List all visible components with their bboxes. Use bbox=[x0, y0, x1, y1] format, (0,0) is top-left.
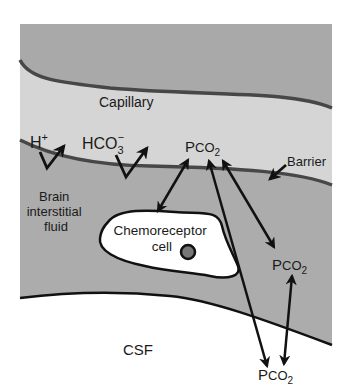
diagram: Capillary Brain interstitial fluid Chemo… bbox=[0, 0, 354, 391]
cell-nucleus bbox=[181, 245, 195, 259]
capillary-label: Capillary bbox=[99, 94, 153, 110]
csf-label: CSF bbox=[123, 341, 153, 358]
barrier-label: Barrier bbox=[287, 154, 327, 169]
